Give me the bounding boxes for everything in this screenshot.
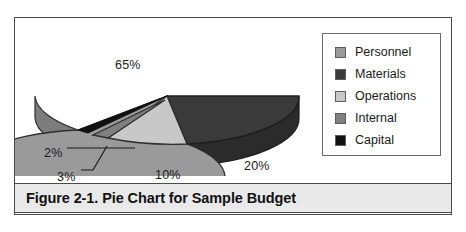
legend-swatch-operations — [335, 91, 346, 102]
pie-chart-plot: 65% 20% 10% 3% 2% — [15, 18, 315, 176]
legend-swatch-capital — [335, 135, 346, 146]
legend-label-personnel: Personnel — [355, 46, 411, 59]
pie-label-personnel: 65% — [115, 58, 141, 72]
legend-item-internal: Internal — [335, 107, 440, 129]
legend-item-capital: Capital — [335, 129, 440, 151]
pie-label-internal: 3% — [57, 170, 75, 184]
legend-label-materials: Materials — [355, 68, 406, 81]
figure-container: 65% 20% 10% 3% 2% Personnel Materials Op… — [0, 0, 466, 232]
legend-item-materials: Materials — [335, 63, 440, 85]
pie-label-operations: 10% — [155, 168, 181, 182]
figure-caption-bar: Figure 2-1. Pie Chart for Sample Budget — [14, 183, 452, 213]
legend-swatch-internal — [335, 113, 346, 124]
figure-caption-text: Figure 2-1. Pie Chart for Sample Budget — [26, 190, 296, 206]
legend-item-operations: Operations — [335, 85, 440, 107]
legend-item-personnel: Personnel — [335, 41, 440, 63]
chart-legend: Personnel Materials Operations Internal … — [322, 33, 441, 156]
legend-swatch-materials — [335, 69, 346, 80]
legend-swatch-personnel — [335, 47, 346, 58]
legend-label-capital: Capital — [355, 134, 394, 147]
pie-label-materials: 20% — [244, 159, 270, 173]
legend-label-internal: Internal — [355, 112, 397, 125]
pie-label-capital: 2% — [44, 146, 62, 160]
legend-label-operations: Operations — [355, 90, 416, 103]
